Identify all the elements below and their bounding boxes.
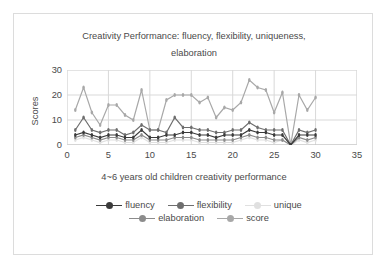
data-point xyxy=(173,133,176,137)
data-point xyxy=(115,128,118,132)
data-point xyxy=(107,128,110,132)
legend-label: fluency xyxy=(125,200,154,210)
x-tick-label-6: 30 xyxy=(310,150,320,160)
data-point xyxy=(198,128,201,132)
data-point xyxy=(273,133,276,137)
data-point xyxy=(107,133,110,137)
data-point xyxy=(149,136,152,140)
data-point xyxy=(190,93,193,97)
data-point xyxy=(140,133,143,137)
data-point xyxy=(182,136,185,140)
data-point xyxy=(231,133,234,137)
legend-label: score xyxy=(246,213,269,223)
data-point xyxy=(223,133,226,137)
data-point xyxy=(298,133,301,137)
data-point xyxy=(240,101,243,105)
data-point xyxy=(215,136,218,140)
data-point xyxy=(314,96,317,100)
legend-item-unique[interactable]: unique xyxy=(245,200,302,210)
legend-item-fluency[interactable]: fluency xyxy=(96,200,154,210)
data-point xyxy=(248,133,251,137)
data-point xyxy=(231,128,234,132)
legend-item-score[interactable]: score xyxy=(217,213,269,223)
data-point xyxy=(314,133,317,137)
data-point xyxy=(124,113,127,117)
data-point xyxy=(281,91,284,95)
data-point xyxy=(132,118,135,122)
x-tick-label-5: 25 xyxy=(269,150,279,160)
data-point xyxy=(273,111,276,115)
data-point xyxy=(82,131,85,135)
data-point xyxy=(82,86,85,90)
data-point xyxy=(173,93,176,97)
data-point xyxy=(99,131,102,135)
data-point xyxy=(182,126,185,130)
data-point xyxy=(248,121,251,125)
data-point xyxy=(190,126,193,130)
data-point xyxy=(314,128,317,132)
data-point xyxy=(240,128,243,132)
legend-item-elaboration[interactable]: elaboration xyxy=(129,213,204,223)
chart-frame: Creativity Performance: fluency, flexibi… xyxy=(13,13,373,255)
legend-marker-icon xyxy=(168,201,194,210)
data-point xyxy=(256,131,259,135)
legend-label: unique xyxy=(274,200,302,210)
legend-label: elaboration xyxy=(158,213,204,223)
x-tick-label-1: 5 xyxy=(106,150,111,160)
data-point xyxy=(165,138,168,142)
data-point xyxy=(273,128,276,132)
data-point xyxy=(240,133,243,137)
x-tick-label-0: 0 xyxy=(64,150,69,160)
data-point xyxy=(256,136,259,140)
data-point xyxy=(74,108,77,112)
chart-title-line-2: elaboration xyxy=(44,45,344,62)
legend-marker-icon xyxy=(245,201,271,210)
data-point xyxy=(157,128,160,132)
legend-label: flexibility xyxy=(197,200,232,210)
data-point xyxy=(182,131,185,135)
legend-marker-icon xyxy=(129,214,155,223)
data-point xyxy=(298,93,301,97)
y-tick-label-0: 0 xyxy=(57,140,62,150)
data-point xyxy=(215,116,218,120)
y-tick-label-3: 30 xyxy=(52,65,62,75)
data-point xyxy=(248,78,251,82)
data-point xyxy=(223,106,226,110)
data-point xyxy=(281,133,284,137)
data-point xyxy=(215,131,218,135)
data-point xyxy=(132,136,135,140)
legend-marker-icon xyxy=(96,201,122,210)
data-point xyxy=(298,128,301,132)
legend-item-flexibility[interactable]: flexibility xyxy=(168,200,232,210)
data-point xyxy=(74,133,77,137)
x-tick-label-2: 10 xyxy=(145,150,155,160)
data-point xyxy=(140,88,143,92)
data-point xyxy=(132,131,135,135)
data-point xyxy=(190,136,193,140)
x-tick-label-3: 15 xyxy=(186,150,196,160)
data-point xyxy=(91,111,94,115)
x-axis-title: 4~6 years old children creativity perfor… xyxy=(24,172,364,182)
legend-marker-icon xyxy=(217,214,243,223)
data-point xyxy=(182,93,185,97)
data-point xyxy=(157,136,160,140)
data-point xyxy=(231,108,234,112)
data-point xyxy=(207,96,210,100)
y-tick-label-2: 20 xyxy=(52,90,62,100)
data-point xyxy=(223,138,226,142)
data-point xyxy=(91,133,94,137)
data-point xyxy=(124,136,127,140)
y-axis-title: Scores xyxy=(30,81,40,141)
data-point xyxy=(107,103,110,107)
data-point xyxy=(91,128,94,132)
data-point xyxy=(256,126,259,130)
x-tick-label-4: 20 xyxy=(228,150,238,160)
chart-title: Creativity Performance: fluency, flexibi… xyxy=(44,28,344,62)
data-point xyxy=(231,138,234,142)
x-tick-label-7: 35 xyxy=(352,150,362,160)
data-point xyxy=(256,86,259,90)
data-point xyxy=(99,136,102,140)
data-point xyxy=(306,108,309,112)
data-point xyxy=(74,128,77,132)
data-point xyxy=(265,136,268,140)
